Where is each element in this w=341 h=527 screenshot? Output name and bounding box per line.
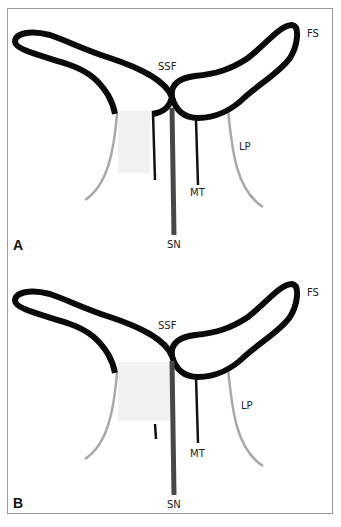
- thin-line-remnant: [155, 424, 156, 439]
- right-sinus-outline: [172, 25, 297, 118]
- right-lateral-pillar: [228, 110, 263, 207]
- panel-a: FS SSF LP MT SN A: [13, 25, 319, 253]
- panel-b: FS SSF LP MT SN B: [13, 284, 319, 511]
- label-sn: SN: [167, 239, 181, 250]
- label-ssf: SSF: [158, 61, 177, 72]
- panel-label-a: A: [13, 237, 23, 253]
- left-sinus-floor: [152, 97, 172, 114]
- label-sn: SN: [167, 499, 181, 510]
- label-lp: LP: [241, 400, 253, 411]
- thin-line: [153, 113, 155, 180]
- left-lateral-pillar: [85, 114, 117, 200]
- left-sinus-outline: [15, 292, 172, 373]
- left-lateral-pillar: [85, 373, 117, 459]
- middle-turbinate-line: [196, 120, 198, 185]
- label-mt: MT: [190, 448, 206, 459]
- label-mt: MT: [190, 187, 206, 198]
- diagram-canvas: FS SSF LP MT SN A FS SSF LP MT SN B: [0, 0, 341, 527]
- label-fs: FS: [307, 287, 319, 298]
- label-ssf: SSF: [158, 320, 177, 331]
- middle-turbinate-line: [196, 377, 198, 443]
- septal-nerve: [172, 361, 174, 495]
- label-fs: FS: [307, 28, 319, 39]
- label-lp: LP: [239, 141, 251, 152]
- shaded-region: [118, 111, 150, 173]
- septal-nerve: [172, 108, 174, 235]
- right-sinus-outline: [172, 284, 297, 377]
- right-lateral-pillar: [228, 369, 263, 466]
- panel-label-b: B: [13, 495, 23, 511]
- left-sinus-outline: [15, 33, 172, 114]
- shaded-region: [118, 362, 170, 421]
